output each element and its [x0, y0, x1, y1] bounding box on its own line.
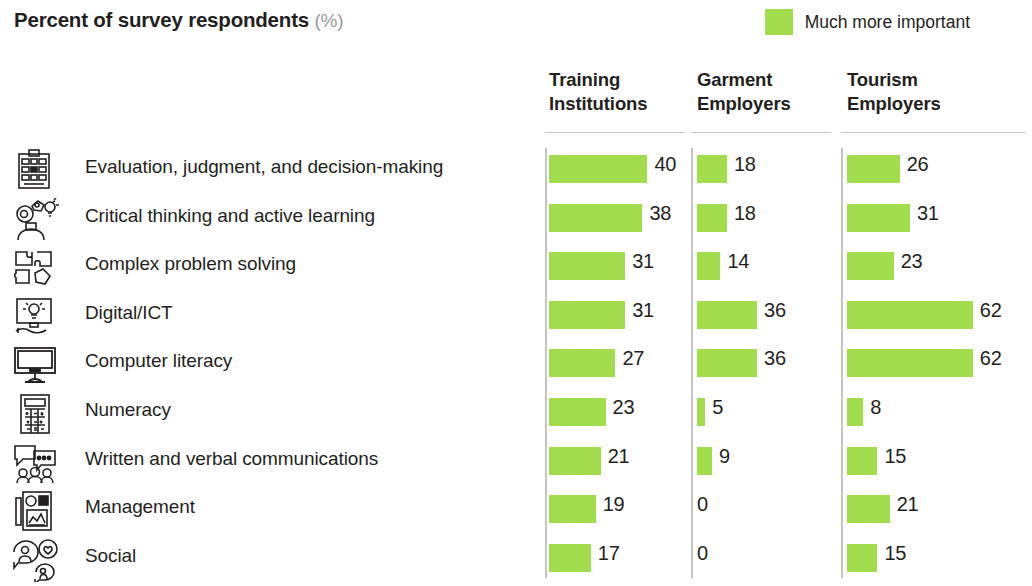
page-title: Percent of survey respondents (%) — [14, 8, 343, 32]
bar — [697, 349, 757, 377]
bar — [549, 398, 606, 426]
bar-value-label: 31 — [632, 296, 654, 324]
legend-label: Much more important — [805, 12, 970, 33]
bar-cell — [549, 155, 647, 183]
bar — [549, 544, 591, 572]
bar-value-label: 26 — [907, 150, 929, 178]
bar — [697, 204, 727, 232]
bar-value-label: 31 — [917, 199, 939, 227]
chart-title-unit: (%) — [314, 10, 343, 31]
bar — [847, 495, 890, 523]
bar-cell — [697, 301, 757, 329]
bar-cell — [847, 349, 973, 377]
bar-value-label: 21 — [608, 442, 630, 470]
chart-title-text: Percent of survey respondents — [14, 8, 309, 31]
clipboard-checklist-icon — [10, 149, 62, 193]
bar-value-label: 5 — [712, 393, 723, 421]
row-label: Written and verbal communications — [85, 448, 378, 470]
bar — [549, 447, 601, 475]
bar — [847, 398, 863, 426]
bar-value-label: 8 — [870, 393, 881, 421]
row-label: Social — [85, 545, 136, 567]
chart-row: Complex problem solving311423 — [0, 248, 1032, 297]
chart-legend: Much more important — [765, 9, 970, 35]
bar-value-label: 17 — [598, 539, 620, 567]
bar-value-label: 38 — [649, 199, 671, 227]
bar-value-label: 15 — [884, 539, 906, 567]
presentation-board-icon — [10, 489, 62, 533]
chart-row: Computer literacy273662 — [0, 345, 1032, 394]
bar — [697, 447, 712, 475]
bar-value-label: 62 — [980, 296, 1002, 324]
column-header-training-institutions: TrainingInstitutions — [549, 68, 647, 115]
head-gears-lightbulb-icon — [10, 198, 62, 242]
bar-cell — [549, 447, 601, 475]
bar — [549, 495, 596, 523]
bar-value-label: 23 — [613, 393, 635, 421]
puzzle-pieces-icon — [10, 246, 62, 290]
column-header-rule — [545, 132, 685, 133]
bar — [847, 252, 894, 280]
chart-row: Social17015 — [0, 540, 1032, 586]
column-header-line: Employers — [847, 92, 941, 116]
monitor-lightbulb-icon — [10, 295, 62, 339]
calculator-icon — [10, 392, 62, 436]
bar-value-label: 9 — [719, 442, 730, 470]
bar-cell — [847, 447, 877, 475]
bar-value-label: 0 — [697, 490, 708, 518]
bar-value-label: 27 — [622, 344, 644, 372]
bar-cell — [847, 495, 890, 523]
row-label: Evaluation, judgment, and decision-makin… — [85, 156, 443, 178]
column-header-line: Training — [549, 68, 647, 92]
speech-bubbles-people-icon — [10, 441, 62, 485]
desktop-monitor-icon — [10, 343, 62, 387]
bar-value-label: 18 — [734, 150, 756, 178]
bar-cell — [697, 252, 720, 280]
bar — [847, 447, 877, 475]
bar — [697, 301, 757, 329]
chart-row: Management19021 — [0, 491, 1032, 540]
bar-cell — [697, 349, 757, 377]
bar-cell — [549, 252, 625, 280]
column-header-line: Garment — [697, 68, 791, 92]
bar-cell — [697, 447, 712, 475]
bar-cell — [697, 155, 727, 183]
bar-value-label: 14 — [727, 247, 749, 275]
bar-cell — [549, 349, 615, 377]
people-heart-bubbles-icon — [10, 538, 62, 582]
bar — [697, 155, 727, 183]
bar — [847, 544, 877, 572]
bar-value-label: 40 — [654, 150, 676, 178]
bar — [549, 301, 625, 329]
chart-row: Numeracy2358 — [0, 394, 1032, 443]
legend-swatch-much-more-important — [765, 9, 793, 35]
bar — [847, 349, 973, 377]
bar-value-label: 21 — [897, 490, 919, 518]
bar-cell — [847, 544, 877, 572]
column-header-rule — [841, 132, 1026, 133]
bar-value-label: 18 — [734, 199, 756, 227]
bar-cell — [847, 398, 863, 426]
bar — [847, 155, 900, 183]
bar-value-label: 62 — [980, 344, 1002, 372]
bar-cell — [549, 398, 606, 426]
bar — [549, 204, 642, 232]
bar-cell — [847, 155, 900, 183]
bar-cell — [697, 398, 705, 426]
column-header-line: Institutions — [549, 92, 647, 116]
chart-row: Evaluation, judgment, and decision-makin… — [0, 151, 1032, 200]
bar-value-label: 31 — [632, 247, 654, 275]
bar — [549, 155, 647, 183]
bar-cell — [549, 204, 642, 232]
bar-cell — [549, 301, 625, 329]
column-header-line: Employers — [697, 92, 791, 116]
row-label: Critical thinking and active learning — [85, 205, 375, 227]
bar — [697, 252, 720, 280]
bar-cell — [697, 204, 727, 232]
bar-cell — [549, 495, 596, 523]
bar-value-label: 0 — [697, 539, 708, 567]
row-label: Numeracy — [85, 399, 171, 421]
bar — [549, 252, 625, 280]
bar-cell — [549, 544, 591, 572]
column-header-tourism-employers: TourismEmployers — [847, 68, 941, 115]
